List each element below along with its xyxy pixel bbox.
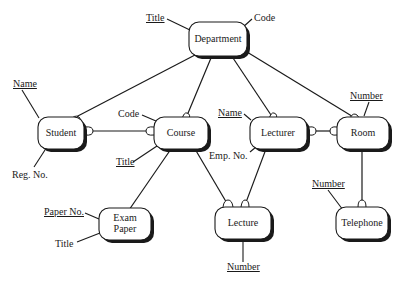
entity-label: Student bbox=[46, 127, 77, 138]
entity-course[interactable]: Course bbox=[154, 117, 211, 152]
crow-foot-icon bbox=[241, 200, 249, 207]
attr-exam-paperno: Paper No. bbox=[44, 206, 84, 217]
attr-room-number: Number bbox=[350, 90, 383, 101]
attr-lecturer-name: Name bbox=[218, 107, 242, 118]
entity-label-line1: Exam bbox=[113, 212, 137, 223]
attr-course-code: Code bbox=[118, 108, 140, 119]
entity-label: Lecture bbox=[228, 217, 259, 228]
entity-label-line2: Paper bbox=[114, 223, 137, 234]
entity-telephone[interactable]: Telephone bbox=[336, 207, 391, 242]
er-diagram: Department Student Course Lecturer Room … bbox=[0, 0, 399, 282]
rel-course-examp bbox=[129, 149, 171, 210]
entity-lecturer[interactable]: Lecturer bbox=[250, 117, 310, 152]
entity-lecture[interactable]: Lecture bbox=[215, 207, 274, 242]
attr-lecture-number: Number bbox=[227, 261, 260, 272]
crow-foot-icon bbox=[309, 127, 316, 135]
attr-course-title: Title bbox=[116, 156, 135, 167]
attr-department-code: Code bbox=[254, 12, 276, 23]
attr-exam-title: Title bbox=[55, 238, 74, 249]
crow-foot-icon bbox=[223, 200, 233, 207]
entity-student[interactable]: Student bbox=[38, 117, 87, 152]
attr-student-regno: Reg. No. bbox=[12, 169, 48, 180]
attr-lecturer-empno: Emp. No. bbox=[209, 150, 248, 161]
attr-department-title: Title bbox=[146, 12, 165, 23]
entity-room[interactable]: Room bbox=[337, 117, 392, 152]
crow-foot-icon bbox=[146, 127, 154, 135]
rel-department-room bbox=[247, 52, 355, 118]
entity-label: Room bbox=[351, 127, 376, 138]
crow-foot-icon bbox=[358, 200, 366, 207]
rel-department-course bbox=[186, 58, 211, 118]
entity-department[interactable]: Department bbox=[189, 22, 250, 59]
attr-student-name: Name bbox=[13, 78, 37, 89]
entity-label: Course bbox=[167, 127, 196, 138]
entity-label: Lecturer bbox=[261, 127, 296, 138]
rel-lecturer-lecture bbox=[245, 149, 266, 205]
entity-label: Telephone bbox=[341, 217, 383, 228]
attr-telephone-number: Number bbox=[312, 178, 345, 189]
entity-exam-paper[interactable]: Exam Paper bbox=[99, 208, 154, 243]
entity-label: Department bbox=[194, 33, 241, 44]
crow-foot-icon bbox=[330, 127, 337, 135]
